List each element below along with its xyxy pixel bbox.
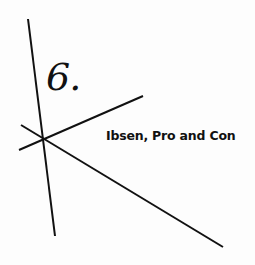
chapter-heading-page: 6. Ibsen, Pro and Con — [0, 0, 255, 265]
chapter-number: 6. — [46, 58, 80, 96]
chapter-title: Ibsen, Pro and Con — [106, 128, 235, 143]
vertical-line — [28, 19, 55, 236]
descending-line — [21, 125, 223, 247]
